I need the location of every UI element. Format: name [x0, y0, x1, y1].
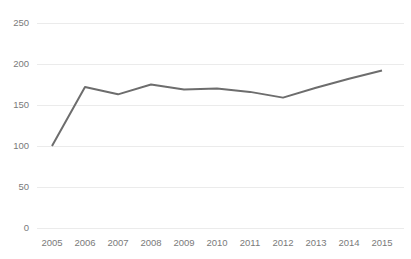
chart-canvas: 050100150200250 200520062007200820092010…: [0, 0, 411, 259]
y-axis-tick-label: 200: [13, 58, 29, 69]
y-axis-tick-label: 250: [13, 17, 29, 28]
x-axis-tick-label: 2011: [240, 237, 260, 248]
x-axis-tick-label: 2010: [206, 237, 227, 248]
x-axis-tick-label: 2014: [338, 237, 359, 248]
x-axis-tick-label: 2008: [140, 237, 161, 248]
x-axis-tick-label: 2009: [173, 237, 194, 248]
y-axis-tick-label: 50: [18, 181, 29, 192]
x-axis-tick-label: 2005: [41, 237, 62, 248]
y-axis-tick-label: 100: [13, 140, 29, 151]
y-axis-tick-label: 0: [24, 222, 29, 233]
x-axis-tick-label: 2013: [305, 237, 326, 248]
x-axis-tick-labels: 2005200620072008200920102011201220132014…: [41, 237, 392, 248]
line-chart: 050100150200250 200520062007200820092010…: [0, 0, 411, 259]
y-axis-tick-label: 150: [13, 99, 29, 110]
x-axis-tick-label: 2006: [74, 237, 95, 248]
x-axis-tick-label: 2007: [107, 237, 128, 248]
x-axis-tick-label: 2015: [371, 237, 392, 248]
x-axis-tick-label: 2012: [272, 237, 293, 248]
